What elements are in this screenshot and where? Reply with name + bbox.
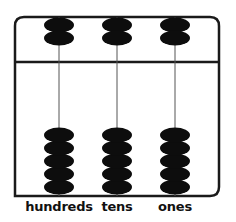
lower-bead: [44, 141, 74, 156]
upper-bead: [160, 31, 190, 46]
lower-bead: [44, 128, 74, 143]
lower-bead: [44, 180, 74, 195]
lower-bead: [160, 180, 190, 195]
lower-bead: [160, 154, 190, 169]
upper-bead: [44, 18, 74, 33]
upper-bead: [102, 31, 132, 46]
rod-ones: [160, 17, 190, 196]
lower-bead: [160, 141, 190, 156]
lower-bead: [102, 128, 132, 143]
rod-label-ones: ones: [140, 199, 210, 214]
lower-bead: [102, 141, 132, 156]
lower-bead: [44, 154, 74, 169]
rod-hundreds: [44, 17, 74, 196]
lower-bead: [102, 180, 132, 195]
lower-bead: [160, 167, 190, 182]
lower-bead: [44, 167, 74, 182]
lower-bead: [102, 154, 132, 169]
abacus: [0, 0, 236, 222]
upper-bead: [44, 31, 74, 46]
upper-bead: [160, 18, 190, 33]
rod-tens: [102, 17, 132, 196]
upper-bead: [102, 18, 132, 33]
lower-bead: [160, 128, 190, 143]
lower-bead: [102, 167, 132, 182]
